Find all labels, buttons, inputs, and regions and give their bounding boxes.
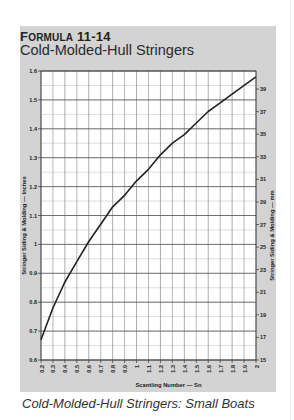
y2-tick-label: 29: [260, 199, 266, 205]
y-tick-label: 0.9: [29, 270, 37, 276]
x-tick-label: 1.2: [158, 365, 164, 373]
x-tick-label: 1.8: [230, 365, 236, 373]
y2-tick-label: 21: [260, 289, 266, 295]
x-tick-label: 1.1: [146, 365, 152, 373]
y-tick-label: 1.6: [29, 68, 37, 74]
y-tick-label: 1.2: [29, 184, 37, 190]
x-tick-label: 1.5: [194, 365, 200, 373]
y2-axis-label: Stringer Siding & Molding — mm: [269, 190, 275, 281]
y2-tick-label: 17: [260, 334, 266, 340]
x-tick-label: 0.6: [86, 365, 92, 373]
x-tick-label: 1: [134, 365, 140, 368]
y-tick-label: 0.7: [29, 328, 37, 334]
y-tick-label: 0.6: [29, 357, 37, 363]
x-tick-label: 0.8: [110, 365, 116, 373]
x-tick-label: 1.4: [182, 364, 188, 373]
x-tick-label: 2: [254, 365, 260, 368]
y-tick-label: 1.1: [29, 213, 37, 219]
y2-tick-label: 25: [260, 244, 266, 250]
y2-tick-label: 15: [260, 357, 266, 363]
x-tick-label: 0.7: [98, 365, 104, 373]
y-axis-label: Stringer Siding & Molding — Inches: [21, 176, 27, 275]
y-tick-label: 1.4: [29, 126, 38, 132]
y-tick-label: 0.8: [29, 299, 37, 305]
y2-tick-label: 23: [260, 267, 266, 273]
x-tick-label: 0.2: [39, 365, 45, 373]
chart: 0.20.30.40.50.60.70.80.911.11.21.31.41.5…: [0, 0, 294, 420]
x-tick-label: 0.9: [122, 365, 128, 373]
y2-tick-label: 31: [260, 176, 266, 182]
x-tick-label: 1.3: [170, 365, 176, 373]
y2-tick-label: 37: [260, 109, 266, 115]
y-tick-label: 1: [34, 241, 37, 247]
y-tick-label: 1.5: [29, 97, 37, 103]
x-tick-label: 0.3: [50, 365, 56, 373]
y-tick-label: 1.3: [29, 155, 37, 161]
y2-tick-label: 35: [260, 131, 266, 137]
y2-tick-label: 33: [260, 154, 266, 160]
x-tick-label: 0.5: [74, 365, 80, 373]
x-axis-label: Scantling Number — Sn: [135, 382, 201, 388]
x-tick-label: 1.7: [218, 365, 224, 373]
y2-tick-label: 19: [260, 312, 266, 318]
x-tick-label: 1.9: [242, 365, 248, 373]
y2-tick-label: 39: [260, 86, 266, 92]
x-tick-label: 0.4: [62, 364, 68, 373]
x-tick-label: 1.6: [206, 365, 212, 373]
y2-tick-label: 27: [260, 222, 266, 228]
